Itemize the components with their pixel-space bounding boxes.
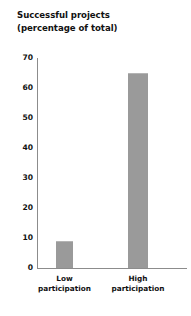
y-axis-line (37, 58, 38, 268)
chart-title-line-1: Successful projects (17, 9, 187, 22)
chart-title-line-2: (percentage of total) (17, 22, 187, 35)
x-label-low-line-1: Low (38, 274, 91, 284)
y-tick-label-0: 0 (28, 264, 33, 272)
x-label-high-line-2: participation (112, 284, 165, 294)
plot-area: 0 10 20 30 40 50 60 70 Low participation… (37, 58, 187, 268)
y-tick-label-20: 20 (22, 204, 33, 212)
chart-title: Successful projects (percentage of total… (17, 9, 187, 34)
y-tick-label-40: 40 (22, 144, 33, 152)
y-tick-label-50: 50 (22, 114, 33, 122)
y-tick-label-10: 10 (22, 234, 33, 242)
x-label-low-line-2: participation (38, 284, 91, 294)
bar-low-participation (56, 241, 73, 268)
y-tick-label-70: 70 (22, 54, 33, 62)
bar-chart: Successful projects (percentage of total… (0, 0, 191, 316)
bar-high-participation (128, 73, 148, 268)
x-label-low-participation: Low participation (38, 274, 91, 293)
y-tick-label-30: 30 (22, 174, 33, 182)
x-label-high-participation: High participation (112, 274, 165, 293)
x-label-high-line-1: High (112, 274, 165, 284)
x-axis-line (37, 268, 187, 269)
y-tick-label-60: 60 (22, 84, 33, 92)
